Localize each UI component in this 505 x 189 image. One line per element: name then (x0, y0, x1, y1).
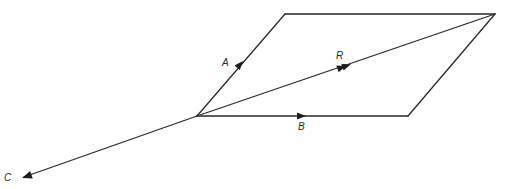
label-r: R (336, 51, 343, 61)
vector-c-arrowhead-icon (21, 171, 33, 182)
vector-a-arrowhead-icon (234, 59, 245, 70)
vector-diagram: A R B C (0, 0, 505, 189)
vector-b-arrowhead-icon (297, 113, 306, 120)
diagram-canvas (0, 0, 505, 189)
label-a: A (222, 58, 229, 68)
label-b: B (298, 122, 305, 132)
vector-c-line (24, 116, 197, 177)
label-c: C (4, 173, 11, 183)
vector-r-arrowhead-second-icon (341, 61, 352, 71)
